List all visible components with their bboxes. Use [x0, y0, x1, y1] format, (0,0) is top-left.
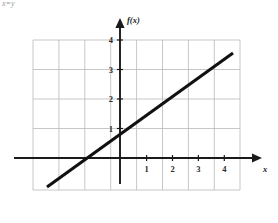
- y-axis-arrowhead: [115, 18, 124, 28]
- grid-lines: [33, 40, 240, 190]
- y-tick-label-3: 3: [109, 65, 113, 75]
- y-tick-label-1: 1: [109, 124, 113, 134]
- x-tick-label-2: 2: [170, 164, 174, 174]
- y-axis-label: f(x): [127, 15, 140, 25]
- x-tick-label-1: 1: [144, 164, 148, 174]
- x-axis-arrowhead: [252, 153, 262, 162]
- x-tick-label-3: 3: [196, 164, 200, 174]
- y-tick-label-2: 2: [109, 94, 113, 104]
- x-tick-label-4: 4: [222, 164, 227, 174]
- graph-figure: x=y: [0, 0, 278, 223]
- tick-marks: [117, 40, 224, 161]
- function-plot: 1 2 3 4 1 2 3 4 f(x) x: [0, 0, 278, 223]
- function-line: [47, 53, 233, 187]
- x-axis-label: x: [262, 164, 268, 174]
